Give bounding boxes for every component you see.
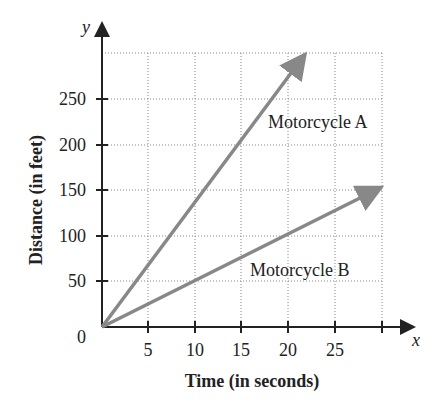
grid [102,53,382,327]
series-motorcycle-a [102,57,303,327]
xtick: 5 [144,340,153,360]
y-axis-label: Distance (in feet) [26,135,47,265]
ytick: 100 [59,226,86,246]
xtick: 15 [232,340,250,360]
origin-label: 0 [77,327,86,347]
ytick: 250 [59,89,86,109]
label-motorcycle-a: Motorcycle A [268,112,367,132]
y-letter: y [80,17,90,37]
ytick: 50 [68,271,86,291]
chart: 5 10 15 20 25 50 100 150 200 250 0 x y M… [0,0,443,402]
x-axis-label: Time (in seconds) [185,371,320,392]
xtick: 25 [326,340,344,360]
series-motorcycle-b [102,189,378,327]
x-letter: x [411,330,420,350]
xtick: 10 [186,340,204,360]
label-motorcycle-b: Motorcycle B [250,260,349,280]
ytick: 150 [59,180,86,200]
xtick: 20 [279,340,297,360]
ytick: 200 [59,135,86,155]
